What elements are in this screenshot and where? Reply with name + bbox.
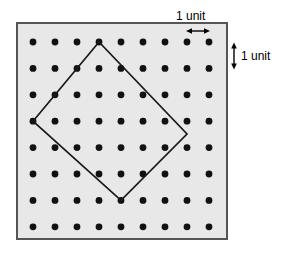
lattice-dot bbox=[96, 65, 103, 72]
lattice-dot bbox=[140, 223, 147, 230]
lattice-dot bbox=[118, 39, 125, 46]
lattice-dot bbox=[74, 91, 81, 98]
lattice-dot bbox=[162, 39, 169, 46]
lattice-dot bbox=[162, 197, 169, 204]
lattice-dot bbox=[74, 118, 81, 125]
vertical-unit-label: 1 unit bbox=[241, 50, 270, 62]
lattice-dot bbox=[96, 118, 103, 125]
lattice-dot bbox=[30, 223, 37, 230]
lattice-dot bbox=[140, 91, 147, 98]
lattice-dot bbox=[184, 39, 191, 46]
lattice-dot bbox=[206, 39, 213, 46]
lattice-dot bbox=[52, 65, 59, 72]
lattice-dot bbox=[96, 144, 103, 151]
lattice-dot bbox=[184, 118, 191, 125]
lattice-dot bbox=[52, 39, 59, 46]
lattice-dot bbox=[30, 197, 37, 204]
lattice-dot bbox=[52, 171, 59, 178]
lattice-dot bbox=[96, 91, 103, 98]
lattice-dot bbox=[184, 144, 191, 151]
lattice-dot bbox=[162, 118, 169, 125]
lattice-dot bbox=[162, 65, 169, 72]
lattice-dot bbox=[140, 144, 147, 151]
lattice-dot bbox=[96, 171, 103, 178]
lattice-dot bbox=[184, 65, 191, 72]
lattice-dot bbox=[52, 144, 59, 151]
lattice-dot bbox=[206, 197, 213, 204]
lattice-dot bbox=[162, 171, 169, 178]
lattice-dot bbox=[206, 91, 213, 98]
lattice-dot bbox=[206, 144, 213, 151]
lattice-dot bbox=[184, 91, 191, 98]
lattice-dot bbox=[118, 91, 125, 98]
grid-board bbox=[17, 23, 227, 239]
lattice-dot bbox=[52, 118, 59, 125]
lattice-dot bbox=[162, 223, 169, 230]
lattice-dot bbox=[96, 223, 103, 230]
lattice-dot bbox=[184, 197, 191, 204]
lattice-dot bbox=[162, 144, 169, 151]
lattice-dot bbox=[118, 144, 125, 151]
lattice-dot bbox=[30, 39, 37, 46]
lattice-dot bbox=[52, 223, 59, 230]
lattice-dot bbox=[184, 223, 191, 230]
lattice-dot bbox=[118, 171, 125, 178]
lattice-dot bbox=[206, 65, 213, 72]
horizontal-unit-label: 1 unit bbox=[176, 10, 205, 22]
lattice-dot bbox=[30, 91, 37, 98]
lattice-dot bbox=[206, 223, 213, 230]
lattice-dot bbox=[30, 65, 37, 72]
lattice-dot bbox=[74, 197, 81, 204]
lattice-dot bbox=[206, 171, 213, 178]
lattice-dot bbox=[140, 118, 147, 125]
lattice-dot bbox=[30, 144, 37, 151]
lattice-dot bbox=[140, 39, 147, 46]
lattice-dot bbox=[30, 171, 37, 178]
lattice-dot bbox=[140, 197, 147, 204]
vertical-unit-arrow bbox=[231, 43, 237, 70]
lattice-dot bbox=[74, 223, 81, 230]
lattice-dot bbox=[118, 223, 125, 230]
lattice-dot bbox=[206, 118, 213, 125]
lattice-dot bbox=[118, 118, 125, 125]
lattice-dot bbox=[74, 39, 81, 46]
lattice-dot bbox=[162, 91, 169, 98]
lattice-dot bbox=[96, 197, 103, 204]
lattice-dot bbox=[52, 197, 59, 204]
lattice-dot bbox=[184, 171, 191, 178]
dot-grid-figure bbox=[0, 0, 282, 253]
lattice-dot bbox=[74, 144, 81, 151]
lattice-dot bbox=[140, 65, 147, 72]
lattice-dot bbox=[74, 171, 81, 178]
